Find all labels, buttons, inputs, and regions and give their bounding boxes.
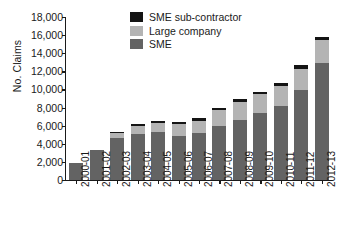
x-axis-tick-mark <box>117 180 118 184</box>
x-axis-tick-mark <box>158 180 159 184</box>
x-axis-tick-mark <box>301 180 302 184</box>
y-axis-tick-mark <box>62 89 66 90</box>
y-axis-tick-label: 16,000 <box>31 30 63 41</box>
x-axis-tick-mark <box>76 180 77 184</box>
y-axis-tick-label: 2,000 <box>37 157 63 168</box>
bar-segment-large-company <box>274 86 288 105</box>
y-axis-tick-label: 14,000 <box>31 48 63 59</box>
x-axis-tick-label: 2001-02 <box>101 151 112 187</box>
x-axis-tick-mark <box>322 180 323 184</box>
legend-label: Large company <box>149 26 221 37</box>
bar-segment-large-company <box>151 123 165 133</box>
bar-segment-large-company <box>192 121 206 133</box>
legend-label: SME sub-contractor <box>149 12 242 23</box>
y-axis-tick-mark <box>62 108 66 109</box>
y-axis-tick-label: 6,000 <box>37 120 63 131</box>
legend-item: SME <box>130 39 242 50</box>
y-axis-tick-mark <box>62 126 66 127</box>
y-axis-tick-mark <box>62 35 66 36</box>
legend-item: Large company <box>130 26 242 37</box>
x-axis-tick-mark <box>281 180 282 184</box>
y-axis-tick-label: 12,000 <box>31 66 63 77</box>
y-axis-tick-label: 10,000 <box>31 84 63 95</box>
y-axis-tick-mark <box>62 162 66 163</box>
x-axis-tick-label: 2007-08 <box>223 151 234 187</box>
chart-figure: No. Claims 02,0004,0006,0008,00010,00012… <box>0 0 339 247</box>
legend-swatch-icon <box>130 12 143 22</box>
x-axis-tick-label: 2002-03 <box>121 151 132 187</box>
x-axis-tick-mark <box>97 180 98 184</box>
y-axis-tick-mark <box>62 180 66 181</box>
x-axis-tick-mark <box>240 180 241 184</box>
bar-segment-large-company <box>233 102 247 121</box>
y-axis-tick-mark <box>62 71 66 72</box>
y-axis-title: No. Claims <box>11 21 23 111</box>
x-axis-tick-label: 2012-13 <box>326 151 337 187</box>
x-axis-tick-label: 2010-11 <box>285 152 296 187</box>
bar-segment-large-company <box>212 110 226 126</box>
bar-segment-large-company <box>315 40 329 64</box>
y-axis-tick-label: 18,000 <box>31 12 63 23</box>
y-axis-tick-mark <box>62 144 66 145</box>
x-axis-tick-mark <box>138 180 139 184</box>
x-axis-tick-label: 2004-05 <box>162 151 173 187</box>
bar-segment-large-company <box>131 126 145 134</box>
x-axis-tick-label: 2005-06 <box>183 151 194 187</box>
legend-item: SME sub-contractor <box>130 12 242 23</box>
bar-segment-large-company <box>172 124 186 135</box>
y-axis-tick-label: 4,000 <box>37 139 63 150</box>
y-axis-tick-label: 8,000 <box>37 102 63 113</box>
x-axis-tick-label: 2000-01 <box>80 151 91 187</box>
bar-segment-large-company <box>294 69 308 90</box>
x-axis-tick-label: 2011-12 <box>305 152 316 187</box>
x-axis-tick-mark <box>260 180 261 184</box>
x-axis-tick-mark <box>179 180 180 184</box>
legend-swatch-icon <box>130 39 143 49</box>
y-axis-tick-mark <box>62 17 66 18</box>
x-axis-tick-mark <box>199 180 200 184</box>
bar-segment-large-company <box>253 94 267 113</box>
x-axis-tick-label: 2009-10 <box>264 151 275 187</box>
legend-label: SME <box>149 39 172 50</box>
x-axis-tick-label: 2006-07 <box>203 151 214 187</box>
x-axis-tick-label: 2008-09 <box>244 151 255 187</box>
chart-legend: SME sub-contractorLarge companySME <box>130 12 242 53</box>
x-axis-tick-label: 2003-04 <box>142 151 153 187</box>
x-axis-tick-mark <box>219 180 220 184</box>
y-axis-tick-mark <box>62 53 66 54</box>
legend-swatch-icon <box>130 26 143 36</box>
